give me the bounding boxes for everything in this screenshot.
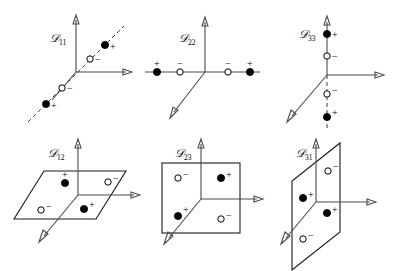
panel-d31: − + + − 𝒟31 xyxy=(270,130,397,271)
axis-depth xyxy=(292,75,327,116)
marker-sign: − xyxy=(177,58,183,69)
marker-sign: + xyxy=(332,204,338,215)
marker-sign: + xyxy=(89,199,95,210)
marker-sign: + xyxy=(51,100,57,111)
panel-d23: − + + − 𝒟23 xyxy=(145,130,285,271)
marker-sign: − xyxy=(226,210,232,221)
marker-sign: − xyxy=(333,161,339,172)
marker-sign: − xyxy=(225,58,231,69)
marker-open-negative xyxy=(218,216,224,222)
marker-filled-positive xyxy=(174,212,181,219)
marker-open-negative xyxy=(324,91,330,97)
marker-sign: + xyxy=(183,204,189,215)
marker-sign: − xyxy=(332,51,338,62)
marker-filled-positive xyxy=(217,174,224,181)
marker-open-negative xyxy=(105,179,111,185)
marker-open-negative xyxy=(175,175,181,181)
marker-sign: + xyxy=(332,29,338,40)
marker-sign: − xyxy=(95,54,101,65)
marker-sign: − xyxy=(113,173,119,184)
marker-sign: + xyxy=(62,169,68,180)
marker-sign: − xyxy=(183,169,189,180)
marker-filled-positive xyxy=(80,205,87,212)
marker-open-negative xyxy=(325,168,331,174)
marker-sign: + xyxy=(110,41,116,52)
axis-depth-arrow xyxy=(39,230,48,242)
marker-sign: − xyxy=(308,230,314,241)
marker-filled-positive xyxy=(323,30,330,37)
panel-d12: + − − + 𝒟12 xyxy=(0,130,160,271)
marker-open-negative xyxy=(225,69,231,75)
panel-label-subscript: 11 xyxy=(59,38,66,47)
panel-label-subscript: 33 xyxy=(308,34,316,43)
panel-label-subscript: 12 xyxy=(57,153,65,162)
marker-filled-positive xyxy=(101,41,108,48)
marker-open-negative xyxy=(38,207,44,213)
marker-filled-positive xyxy=(299,194,306,201)
panel-label-subscript: 22 xyxy=(188,38,196,47)
axis-depth-arrow xyxy=(287,110,296,122)
marker-filled-positive xyxy=(42,100,49,107)
panel-d33: + − − + 𝒟33 xyxy=(270,0,397,135)
figure-canvas: + − − + 𝒟11 + − − + 𝒟22 xyxy=(0,0,397,271)
panel-label-subscript: 23 xyxy=(184,153,192,162)
axis-depth-arrow xyxy=(164,232,173,244)
panel-label-d12: 𝒟12 xyxy=(48,147,65,162)
panel-label-d31: 𝒟31 xyxy=(296,147,313,162)
marker-filled-positive xyxy=(323,113,330,120)
marker-open-negative xyxy=(177,69,183,75)
axis-depth xyxy=(174,72,205,112)
marker-filled-positive xyxy=(153,68,160,75)
marker-sign: − xyxy=(332,85,338,96)
marker-sign: + xyxy=(332,107,338,118)
axis-depth-arrow xyxy=(281,232,290,244)
panel-d22: + − − + 𝒟22 xyxy=(140,0,270,130)
marker-sign: + xyxy=(154,58,160,69)
panel-d11: + − − + 𝒟11 xyxy=(0,0,140,130)
marker-filled-positive xyxy=(61,179,68,186)
marker-filled-positive xyxy=(323,209,330,216)
marker-sign: + xyxy=(226,169,232,180)
panel-label-subscript: 31 xyxy=(305,153,313,162)
marker-sign: + xyxy=(247,58,253,69)
marker-sign: − xyxy=(67,83,73,94)
panel-label-d33: 𝒟33 xyxy=(299,28,316,43)
axis-depth-arrow xyxy=(170,107,178,118)
marker-open-negative xyxy=(59,85,65,91)
marker-open-negative xyxy=(300,236,306,242)
marker-sign: − xyxy=(46,201,52,212)
marker-filled-positive xyxy=(246,68,253,75)
marker-open-negative xyxy=(87,56,93,62)
panel-label-d22: 𝒟22 xyxy=(179,32,196,47)
panel-label-d23: 𝒟23 xyxy=(175,147,192,162)
marker-sign: + xyxy=(308,189,314,200)
panel-label-d11: 𝒟11 xyxy=(50,32,66,47)
marker-open-negative xyxy=(324,53,330,59)
